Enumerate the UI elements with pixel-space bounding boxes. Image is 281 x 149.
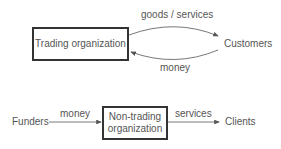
money-return-arrow [131, 50, 218, 60]
funders-label: Funders [12, 117, 49, 127]
non-trading-organization-box: Non-trading organization [102, 106, 168, 140]
trading-organization-box: Trading organization [32, 27, 129, 61]
goods-services-arrow [129, 27, 218, 36]
money-label-bottom: money [60, 109, 90, 119]
customers-label: Customers [224, 39, 272, 49]
non-trading-label-line2: organization [108, 123, 162, 135]
clients-label: Clients [225, 117, 256, 127]
services-label: services [175, 109, 212, 119]
goods-services-label: goods / services [141, 10, 213, 20]
trading-organization-label: Trading organization [35, 38, 126, 50]
non-trading-label-line1: Non-trading [109, 111, 161, 123]
money-label-top: money [160, 63, 190, 73]
